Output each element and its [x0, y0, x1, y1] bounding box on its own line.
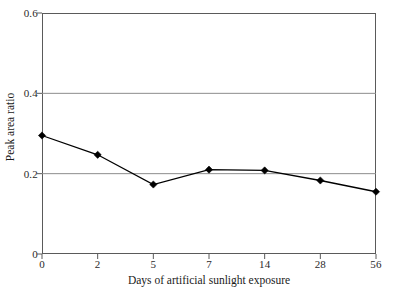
data-point-28: [317, 177, 324, 184]
x-tick-label-5: 5: [133, 258, 173, 270]
data-point-0: [38, 132, 45, 139]
data-point-2: [94, 151, 101, 158]
x-tick-label-28: 28: [300, 258, 340, 270]
data-point-14: [261, 167, 268, 174]
x-tick-label-0: 0: [22, 258, 62, 270]
x-tick-label-7: 7: [189, 258, 229, 270]
y-axis-title: Peak area ratio: [4, 93, 17, 161]
plot-area: [42, 13, 376, 254]
x-tick-label-2: 2: [78, 258, 118, 270]
series-line-peak-area-ratio: [42, 136, 376, 192]
data-point-56: [372, 188, 379, 195]
gridlines: [42, 93, 376, 173]
data-point-5: [150, 181, 157, 188]
x-tick-label-56: 56: [356, 258, 395, 270]
series-markers-peak-area-ratio: [38, 132, 379, 195]
x-axis-title: Days of artificial sunlight exposure: [42, 274, 376, 287]
x-axis-tick-labels: 0257142856: [42, 258, 376, 274]
y-axis-title-wrap: Peak area ratio: [2, 0, 18, 254]
data-point-7: [205, 166, 212, 173]
chart-figure: 0.6 0.4 0.2 0 Peak area ratio 0257142856…: [0, 0, 395, 298]
x-tick-label-14: 14: [245, 258, 285, 270]
